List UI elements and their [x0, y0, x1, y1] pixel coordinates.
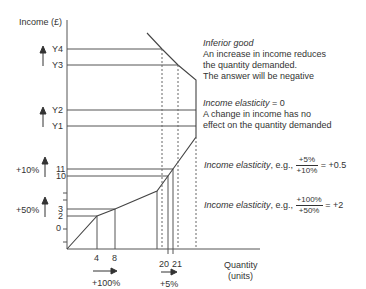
y-tick-10: 10	[56, 172, 66, 181]
change-plus5: +5%	[160, 280, 178, 289]
y-axis-label: Income (£)	[19, 18, 62, 27]
y-tick-0: 0	[56, 224, 61, 233]
y-tick-y3: Y3	[52, 61, 63, 70]
annotation-half: Income elasticity, e.g., +5%+10% = +0.5	[204, 155, 346, 176]
y-tick-2: 2	[58, 212, 63, 221]
x-tick-21: 21	[172, 260, 182, 269]
fraction-two: +100%+50%	[296, 195, 323, 216]
change-plus50: +50%	[16, 206, 39, 215]
x-axis-label-2: (units)	[228, 272, 253, 281]
fraction-half: +5%+10%	[296, 155, 319, 176]
change-plus100: +100%	[92, 279, 120, 288]
x-tick-8: 8	[112, 254, 117, 263]
annotation-inferior: Inferior good An increase in income redu…	[203, 38, 326, 82]
y-tick-y1: Y1	[52, 122, 63, 131]
annotation-two: Income elasticity, e.g., +100%+50% = +2	[204, 195, 343, 216]
x-tick-20: 20	[159, 260, 169, 269]
x-axis-label-1: Quantity	[224, 261, 258, 270]
x-tick-4: 4	[94, 254, 99, 263]
change-plus10: +10%	[16, 166, 39, 175]
y-tick-y2: Y2	[52, 106, 63, 115]
annotation-zero: Income elasticity = 0 A change in income…	[203, 98, 331, 131]
y-tick-y4: Y4	[52, 45, 63, 54]
